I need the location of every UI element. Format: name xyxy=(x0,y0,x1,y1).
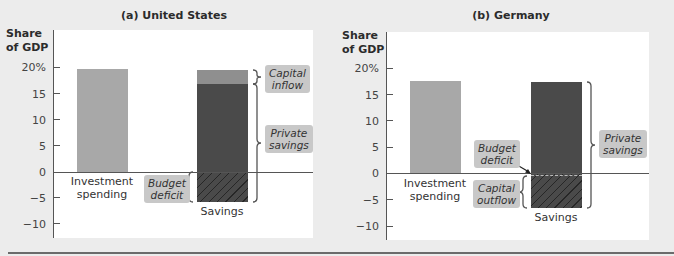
y-tick xyxy=(54,93,60,94)
y-tick xyxy=(387,120,393,121)
y-tick-label: 10 xyxy=(349,115,379,128)
y-tick-label: 15 xyxy=(16,88,46,101)
panel-germany: (b) Germany Share of GDP 20% 15 10 5 0 −… xyxy=(337,0,674,250)
callout-capital-outflow: Capital outflow xyxy=(473,180,520,208)
y-tick xyxy=(54,67,60,68)
category-label-savings: Savings xyxy=(201,205,244,218)
y-tick xyxy=(54,223,60,224)
bar-budget-deficit xyxy=(197,172,248,202)
bar-capital-inflow xyxy=(197,70,248,84)
category-label-investment: Investment spending xyxy=(404,177,466,203)
y-tick-label: −5 xyxy=(349,194,379,207)
panel-title: (b) Germany xyxy=(472,9,550,22)
y-tick xyxy=(387,199,393,200)
y-tick-label: 20% xyxy=(16,61,46,74)
brace-private-savings-icon xyxy=(252,84,262,202)
bar-private-savings xyxy=(531,82,582,173)
callout-capital-inflow: Capital inflow xyxy=(265,65,310,93)
bar-capital-outflow xyxy=(531,173,582,208)
figure-bottom-rule xyxy=(8,252,674,254)
y-tick-label: 5 xyxy=(16,140,46,153)
y-tick-label: 0 xyxy=(16,166,46,179)
y-tick xyxy=(387,226,393,227)
y-tick-label: 5 xyxy=(349,141,379,154)
y-tick xyxy=(54,119,60,120)
y-tick xyxy=(387,68,393,69)
y-tick-label: −10 xyxy=(349,220,379,233)
panel-united-states: (a) United States Share of GDP 20% 15 10… xyxy=(0,0,337,250)
y-tick xyxy=(54,145,60,146)
bar-investment-spending xyxy=(77,69,128,172)
bar-investment-spending xyxy=(410,81,461,173)
y-axis xyxy=(53,30,54,238)
y-tick-label: 20% xyxy=(349,62,379,75)
callout-budget-deficit: Budget deficit xyxy=(144,175,190,203)
zero-line xyxy=(53,172,313,173)
y-tick-label: −10 xyxy=(16,218,46,231)
y-tick-label: 15 xyxy=(349,89,379,102)
y-tick xyxy=(387,147,393,148)
panel-title: (a) United States xyxy=(121,9,227,22)
y-tick xyxy=(387,94,393,95)
callout-private-savings: Private savings xyxy=(599,130,647,158)
y-tick xyxy=(54,197,60,198)
category-label-savings: Savings xyxy=(535,211,578,224)
callout-budget-deficit: Budget deficit xyxy=(474,140,520,168)
y-tick-label: 0 xyxy=(349,167,379,180)
budget-deficit-dashed-line xyxy=(531,175,582,176)
category-label-investment: Investment spending xyxy=(71,175,133,201)
y-axis-label: Share of GDP xyxy=(342,29,384,57)
brace-capital-inflow-icon xyxy=(252,70,262,84)
bar-private-savings xyxy=(197,84,248,172)
y-tick-label: 10 xyxy=(16,114,46,127)
y-axis-label: Share of GDP xyxy=(6,27,48,55)
callout-private-savings: Private savings xyxy=(265,125,313,153)
brace-private-savings-icon xyxy=(586,82,596,208)
y-axis xyxy=(386,32,387,240)
y-tick-label: −5 xyxy=(16,192,46,205)
